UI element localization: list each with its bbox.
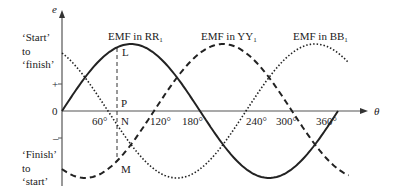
minus-label: –: [53, 132, 59, 144]
tick-120: 120°: [150, 115, 171, 127]
plus-label: +: [52, 78, 58, 90]
finish-label-2: to: [22, 162, 31, 174]
curve-label-bb1: EMF in BB1: [293, 30, 348, 46]
x-axis-label: θ: [374, 105, 379, 117]
tick-60: 60°: [92, 115, 107, 127]
x-axis-arrow-icon: [360, 108, 368, 114]
point-n: N: [121, 115, 129, 127]
point-p: P: [121, 97, 127, 109]
tick-360: 360°: [316, 115, 337, 127]
origin-label: 0: [52, 105, 58, 117]
finish-label-1: ‘Finish’: [22, 148, 57, 160]
point-m: M: [121, 163, 131, 175]
start-label-3: ‘finish’: [22, 58, 54, 70]
y-axis-label: e: [52, 3, 57, 15]
point-l: L: [122, 46, 129, 58]
tick-240: 240°: [246, 115, 267, 127]
tick-180: 180°: [182, 115, 203, 127]
finish-label-3: ‘start’: [22, 175, 48, 187]
curve-label-yy1: EMF in YY1: [201, 30, 257, 46]
y-axis-arrow-icon: [59, 10, 65, 18]
curve-label-rr1: EMF in RR1: [108, 30, 163, 46]
tick-300: 300°: [276, 115, 297, 127]
start-label-2: to: [22, 45, 31, 57]
start-label-1: ‘Start’: [22, 31, 50, 43]
